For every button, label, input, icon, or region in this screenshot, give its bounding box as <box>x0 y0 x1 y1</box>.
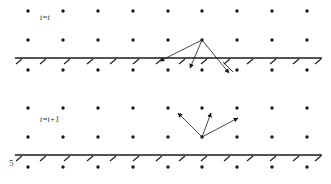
wall-hatch <box>133 156 139 161</box>
lattice-node <box>61 38 64 41</box>
lattice-node <box>270 135 273 138</box>
velocity-arrow <box>190 40 202 68</box>
lattice-node <box>200 106 203 109</box>
lattice-node <box>96 165 99 168</box>
wall-hatch <box>16 59 22 64</box>
lattice-node <box>235 165 238 168</box>
lattice-node <box>96 9 99 12</box>
lattice-node <box>131 165 134 168</box>
lattice-node <box>61 165 64 168</box>
lattice-node <box>270 68 273 71</box>
wall-hatch <box>201 156 207 161</box>
lattice-node <box>26 38 29 41</box>
wall-hatch <box>270 59 276 64</box>
lattice-node <box>26 9 29 12</box>
wall-hatch <box>64 156 70 161</box>
lattice-node <box>270 165 273 168</box>
lattice-node <box>61 9 64 12</box>
lattice-node <box>26 106 29 109</box>
wall-hatch <box>133 59 139 64</box>
lattice-node <box>166 9 169 12</box>
lattice-node <box>96 68 99 71</box>
wall-hatch <box>16 156 22 161</box>
lattice-node <box>131 106 134 109</box>
wall-hatch <box>315 156 321 161</box>
lattice-node <box>235 106 238 109</box>
wall-hatch <box>179 59 185 64</box>
lattice-node <box>131 68 134 71</box>
lattice-node <box>305 38 308 41</box>
lattice-node <box>235 68 238 71</box>
lattice-node <box>200 9 203 12</box>
time-label-bottom: t=t+1 <box>40 115 59 124</box>
wall-hatch <box>293 156 299 161</box>
lattice-node <box>61 135 64 138</box>
page-number: 5 <box>9 158 14 168</box>
lattice-node <box>305 106 308 109</box>
wall-hatch <box>201 59 207 64</box>
lattice-node <box>305 135 308 138</box>
lattice-node <box>305 9 308 12</box>
wall-hatch <box>87 156 93 161</box>
lattice-diagram <box>0 0 331 184</box>
lattice-node <box>61 68 64 71</box>
lattice-node <box>131 38 134 41</box>
lattice-node <box>166 106 169 109</box>
lattice-node <box>96 135 99 138</box>
lattice-node <box>26 135 29 138</box>
lattice-node <box>235 135 238 138</box>
wall-hatch <box>110 156 116 161</box>
lattice-node <box>61 106 64 109</box>
lattice-node <box>305 165 308 168</box>
wall-hatch <box>64 59 70 64</box>
wall-hatch <box>293 59 299 64</box>
wall-hatch <box>224 59 230 64</box>
lattice-node <box>305 68 308 71</box>
wall-hatch <box>156 156 162 161</box>
wall-hatch <box>179 156 185 161</box>
lattice-node <box>270 9 273 12</box>
velocity-arrow <box>202 40 229 73</box>
lattice-node <box>200 165 203 168</box>
lattice-node <box>96 106 99 109</box>
lattice-node <box>200 68 203 71</box>
wall-hatch <box>40 156 46 161</box>
lattice-node <box>26 68 29 71</box>
lattice-node <box>235 9 238 12</box>
wall-hatch <box>156 59 162 64</box>
wall-hatch <box>40 59 46 64</box>
wall-hatch <box>247 59 253 64</box>
lattice-node <box>96 38 99 41</box>
lattice-node <box>166 38 169 41</box>
lattice-node <box>166 68 169 71</box>
wall-hatch <box>247 156 253 161</box>
lattice-node <box>270 106 273 109</box>
lattice-node <box>270 38 273 41</box>
wall-hatch <box>270 156 276 161</box>
wall-hatch <box>87 59 93 64</box>
lattice-node <box>166 135 169 138</box>
velocity-arrow <box>178 113 202 137</box>
time-label-top: t=t <box>40 13 50 22</box>
lattice-node <box>235 38 238 41</box>
lattice-node <box>26 165 29 168</box>
wall-hatch <box>110 59 116 64</box>
lattice-node <box>131 9 134 12</box>
wall-hatch <box>315 59 321 64</box>
wall-hatch <box>224 156 230 161</box>
lattice-node <box>166 165 169 168</box>
velocity-arrow <box>202 118 238 137</box>
lattice-node <box>131 135 134 138</box>
